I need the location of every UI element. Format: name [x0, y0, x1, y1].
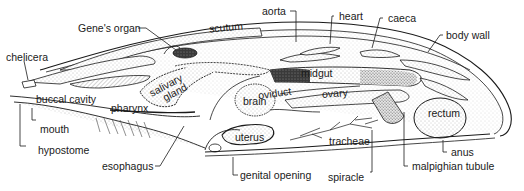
label-spiracle: spiracle	[328, 172, 364, 183]
label-caeca: caeca	[388, 13, 416, 24]
label-midgut: midgut	[301, 68, 333, 79]
label-hypostome: hypostome	[38, 145, 89, 156]
genes-organ-shape	[173, 48, 197, 58]
label-scutum: scutum	[209, 21, 244, 34]
label-anus: anus	[451, 147, 474, 158]
label-pharynx: pharynx	[111, 103, 148, 114]
label-esophagus: esophagus	[102, 161, 153, 172]
label-genes-organ: Gene's organ	[78, 23, 141, 34]
label-tracheae: tracheae	[329, 136, 370, 147]
label-uterus: uterus	[235, 132, 264, 143]
label-buccal-cavity: buccal cavity	[36, 94, 96, 105]
label-heart: heart	[339, 11, 363, 22]
label-rectum: rectum	[428, 108, 460, 119]
label-chelicera: chelicera	[6, 52, 48, 63]
label-malpighian-tubule: malpighian tubule	[412, 161, 494, 172]
label-aorta: aorta	[262, 6, 286, 17]
label-mouth: mouth	[40, 124, 69, 135]
label-genital-opening: genital opening	[240, 170, 311, 181]
label-ovary: ovary	[322, 87, 348, 99]
label-body-wall: body wall	[446, 30, 490, 41]
